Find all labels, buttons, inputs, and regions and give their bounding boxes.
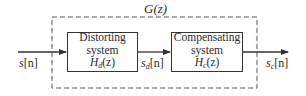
transfer-function: Hc(z) <box>195 56 220 73</box>
transfer-function: Hd(z) <box>90 56 115 73</box>
input-signal-label: s[n] <box>19 57 38 69</box>
compensating-system-block: Compensating system Hc(z) <box>171 32 243 72</box>
distorting-system-block: Distorting system Hd(z) <box>67 32 138 72</box>
block-subtitle: system <box>87 44 119 57</box>
group-label: G(z) <box>144 2 167 15</box>
block-title: Distorting <box>79 31 126 44</box>
block-subtitle: system <box>191 44 223 57</box>
output-signal-label: sc[n] <box>266 57 288 71</box>
intermediate-signal-label: sd[n] <box>141 57 164 71</box>
block-title: Compensating <box>174 31 240 44</box>
